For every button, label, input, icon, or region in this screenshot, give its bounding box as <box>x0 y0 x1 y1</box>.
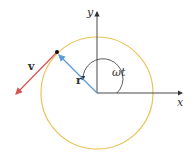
velocity-vector-label: v <box>27 60 35 73</box>
position-vector-label: r <box>76 74 82 87</box>
angle-label: ωt <box>112 66 126 79</box>
x-axis-label: x <box>177 96 184 109</box>
velocity-vector-v <box>16 52 57 94</box>
particle-point <box>55 50 59 54</box>
y-axis-label: y <box>86 6 94 19</box>
circular-motion-diagram: y x ωt r v <box>0 0 196 162</box>
